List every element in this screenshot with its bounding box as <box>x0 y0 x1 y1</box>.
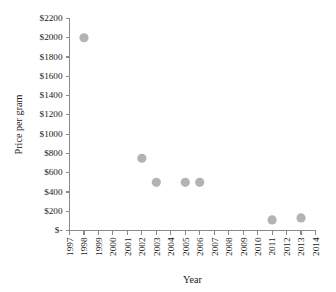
y-axis-ticks: $-$200$400$600$800$1000$1200$1400$1600$1… <box>40 13 70 235</box>
data-point <box>267 215 276 224</box>
data-point <box>296 213 305 222</box>
data-point <box>137 154 146 163</box>
scatter-chart: $-$200$400$600$800$1000$1200$1400$1600$1… <box>0 0 336 292</box>
y-tick-label: $1800 <box>40 52 63 62</box>
data-point <box>152 178 161 187</box>
x-tick-label: 2007 <box>210 237 220 256</box>
y-tick-label: $1200 <box>40 109 63 119</box>
data-point <box>181 178 190 187</box>
x-axis-ticks: 1997199819992000200120022003200420052006… <box>65 231 321 256</box>
chart-canvas: $-$200$400$600$800$1000$1200$1400$1600$1… <box>0 0 336 292</box>
y-tick-label: $600 <box>44 167 63 177</box>
y-tick-label: $1400 <box>40 90 63 100</box>
x-tick-label: 2002 <box>137 237 147 256</box>
x-tick-label: 2004 <box>166 237 176 256</box>
x-tick-label: 2010 <box>253 237 263 256</box>
x-tick-label: 2012 <box>282 237 292 256</box>
y-axis-title: Price per gram <box>13 94 24 154</box>
x-tick-label: 2009 <box>239 237 249 256</box>
x-tick-label: 2005 <box>181 237 191 256</box>
x-tick-label: 2003 <box>152 237 162 256</box>
x-tick-label: 2014 <box>311 237 321 256</box>
y-tick-label: $200 <box>44 206 63 216</box>
y-tick-label: $- <box>55 225 63 235</box>
x-tick-label: 2000 <box>108 237 118 256</box>
x-tick-label: 2001 <box>123 237 133 256</box>
data-point <box>79 33 88 42</box>
data-point <box>195 178 204 187</box>
x-tick-label: 2008 <box>224 237 234 256</box>
y-tick-label: $1000 <box>40 129 63 139</box>
y-tick-label: $1600 <box>40 71 63 81</box>
x-tick-label: 1999 <box>94 237 104 256</box>
x-axis-title: Year <box>183 274 202 285</box>
y-tick-label: $400 <box>44 187 63 197</box>
x-tick-label: 2006 <box>195 237 205 256</box>
data-point-group <box>79 33 305 224</box>
y-tick-label: $800 <box>44 148 63 158</box>
x-tick-label: 1998 <box>79 237 89 256</box>
y-tick-label: $2200 <box>40 13 63 23</box>
y-tick-label: $2000 <box>40 32 63 42</box>
x-tick-label: 1997 <box>65 237 75 256</box>
x-tick-label: 2013 <box>296 237 306 256</box>
x-tick-label: 2011 <box>267 237 277 255</box>
